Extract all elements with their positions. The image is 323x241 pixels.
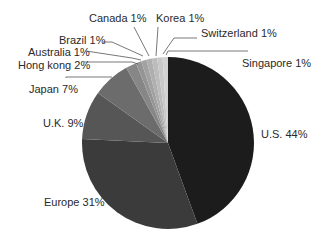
label-uk: U.K. 9% <box>43 117 83 129</box>
leader-line-hongkong <box>84 62 138 64</box>
label-us: U.S. 44% <box>261 128 307 140</box>
label-canada: Canada 1% <box>89 12 147 24</box>
leader-line-australia <box>86 51 141 60</box>
label-europe: Europe 31% <box>44 196 105 208</box>
leader-line-brazil <box>103 42 143 56</box>
label-hongkong: Hong kong 2% <box>18 59 90 71</box>
label-switzerland: Switzerland 1% <box>201 27 277 39</box>
label-australia: Australia 1% <box>28 46 90 58</box>
pie-slices <box>82 57 254 229</box>
label-brazil: Brazil 1% <box>59 34 105 46</box>
leader-line-canada <box>134 27 149 56</box>
label-singapore: Singapore 1% <box>242 57 311 69</box>
leader-line-japan <box>66 77 112 78</box>
leader-line-korea <box>156 27 158 56</box>
label-japan: Japan 7% <box>29 83 78 95</box>
label-korea: Korea 1% <box>156 12 204 24</box>
leader-line-singapore <box>166 51 248 55</box>
